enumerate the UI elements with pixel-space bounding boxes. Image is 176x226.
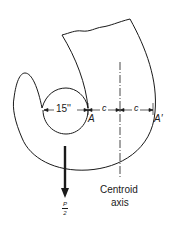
centroid-axis-label-line2: axis bbox=[111, 198, 129, 208]
hook-outline bbox=[13, 19, 155, 170]
load-numerator: P bbox=[63, 201, 67, 207]
centroid-axis-label-line1: Centroid bbox=[100, 185, 138, 195]
point-a-prime-label: A′ bbox=[154, 114, 163, 124]
point-a-label: A bbox=[88, 114, 95, 124]
fraction-bar bbox=[62, 208, 68, 209]
load-label: P 2 bbox=[62, 201, 68, 216]
load-arrow bbox=[61, 146, 69, 198]
load-denominator: 2 bbox=[63, 210, 66, 216]
diameter-label: 15'' bbox=[56, 104, 71, 114]
dimension-c-left: c bbox=[102, 104, 107, 113]
dimension-c-right: c bbox=[134, 104, 139, 113]
